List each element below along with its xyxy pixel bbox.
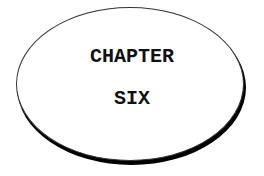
chapter-label: CHAPTER — [0, 45, 264, 68]
chapter-oval — [16, 7, 244, 161]
chapter-number: SIX — [0, 87, 264, 110]
